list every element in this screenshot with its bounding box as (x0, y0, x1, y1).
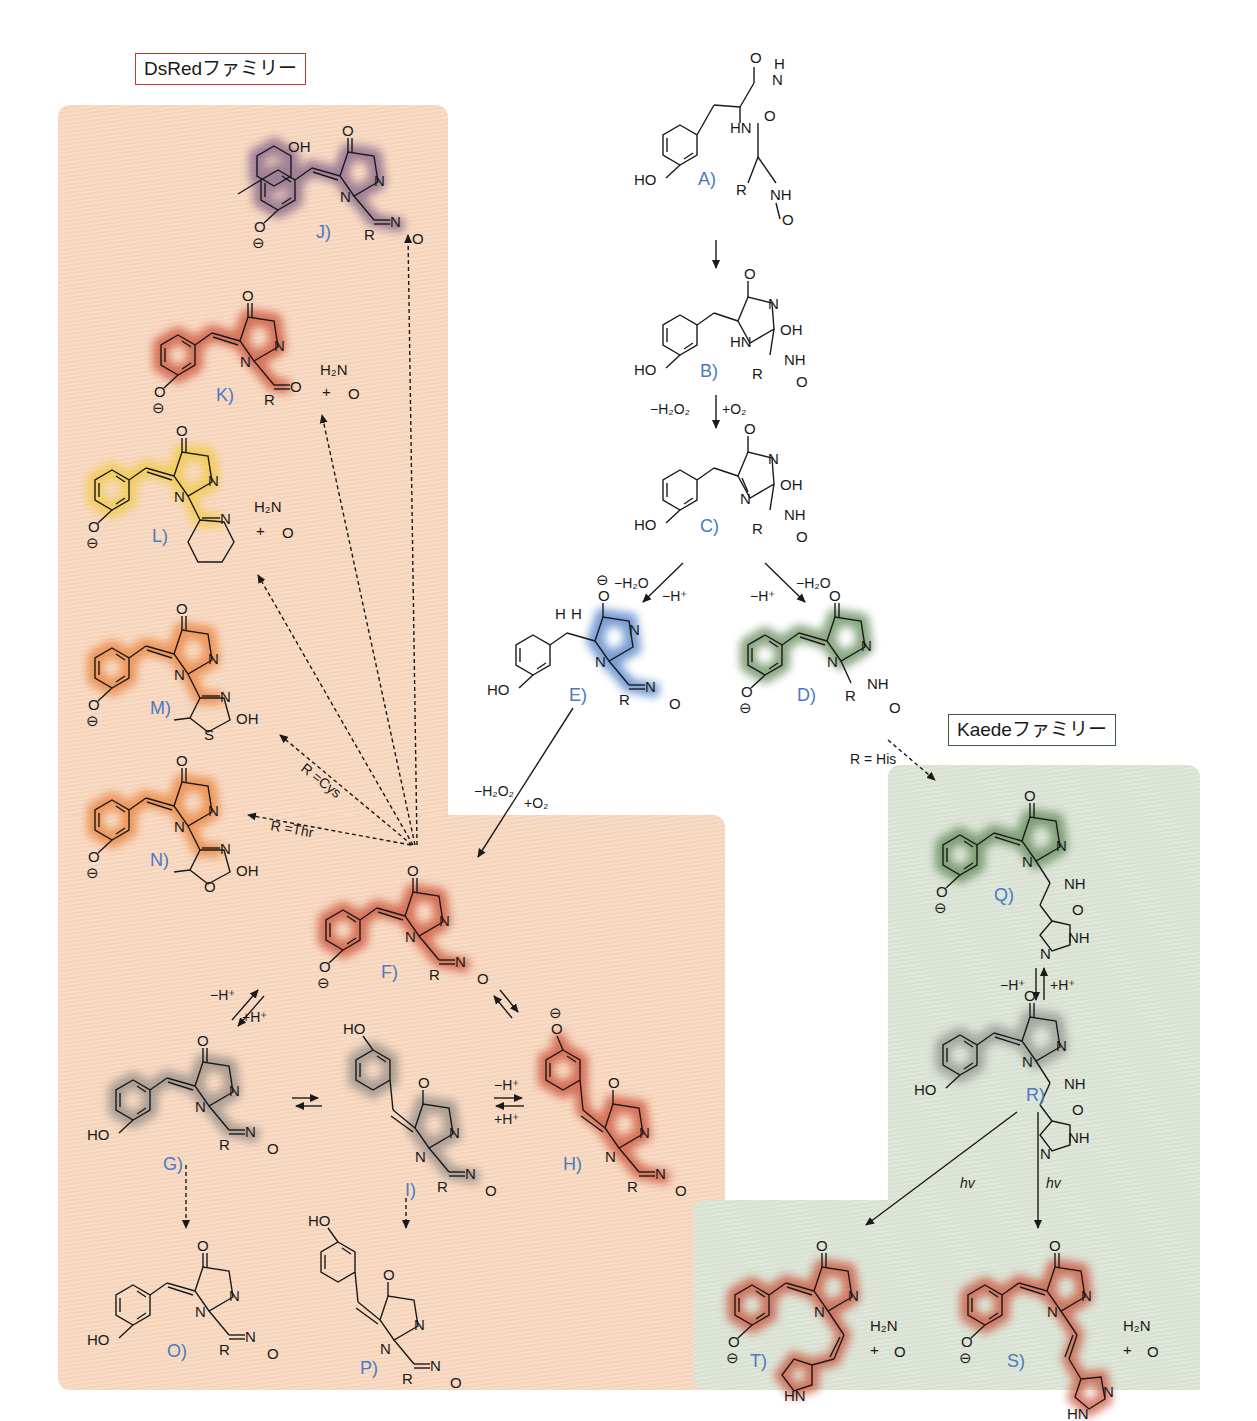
svg-text:T): T) (750, 1351, 767, 1371)
svg-text:N: N (595, 653, 606, 670)
svg-text:+O₂: +O₂ (524, 795, 549, 811)
svg-text:N: N (768, 295, 779, 312)
reaction-scheme: HO HN O N H O R NH O A) HO O N HN OH R N… (0, 0, 1257, 1421)
svg-text:O: O (282, 524, 294, 541)
svg-text:N: N (245, 1123, 256, 1140)
svg-text:R): R) (1026, 1085, 1045, 1105)
svg-text:O: O (342, 122, 354, 139)
svg-text:N: N (629, 621, 640, 638)
svg-text:NH: NH (1064, 1075, 1086, 1092)
svg-text:⊖: ⊖ (596, 571, 609, 588)
svg-text:−H⁺: −H⁺ (1000, 977, 1025, 993)
svg-text:O: O (412, 230, 424, 247)
svg-text:O: O (1072, 1101, 1084, 1118)
svg-text:N: N (208, 472, 219, 489)
svg-text:O: O (88, 518, 100, 535)
svg-text:O: O (176, 422, 188, 439)
svg-text:N: N (1081, 1287, 1092, 1304)
svg-text:O: O (741, 683, 753, 700)
compound-o: HO O N N N R O O) (87, 1237, 279, 1362)
svg-text:N: N (229, 1287, 240, 1304)
svg-text:N: N (814, 1303, 825, 1320)
compound-q: O ⊖ O N N NH O NH N Q) (934, 787, 1090, 962)
svg-text:O: O (348, 385, 360, 402)
svg-text:O: O (889, 699, 901, 716)
svg-text:OH: OH (780, 476, 803, 493)
svg-text:H₂N: H₂N (1123, 1317, 1151, 1334)
svg-text:NH: NH (867, 675, 889, 692)
svg-text:NH: NH (770, 186, 792, 203)
svg-text:⊖: ⊖ (959, 1349, 972, 1366)
svg-text:H₂N: H₂N (254, 498, 282, 515)
svg-text:R = His: R = His (850, 751, 896, 767)
svg-text:OH: OH (236, 710, 259, 727)
svg-text:⊖: ⊖ (739, 699, 752, 716)
svg-text:O: O (197, 1237, 209, 1254)
svg-text:O: O (961, 1333, 973, 1350)
svg-text:HO: HO (634, 516, 657, 533)
svg-text:+: + (870, 1341, 879, 1358)
svg-text:N: N (274, 337, 285, 354)
svg-text:HO: HO (343, 1020, 366, 1037)
svg-text:O: O (1147, 1343, 1159, 1360)
svg-text:O: O (796, 373, 808, 390)
svg-text:O: O (176, 600, 188, 617)
svg-text:⊖: ⊖ (86, 712, 99, 729)
svg-text:H): H) (563, 1154, 582, 1174)
svg-text:O: O (88, 696, 100, 713)
svg-text:O: O (407, 862, 419, 879)
svg-text:N: N (174, 818, 185, 835)
svg-text:N: N (439, 912, 450, 929)
svg-text:K): K) (216, 385, 234, 405)
svg-text:+: + (322, 383, 331, 400)
svg-text:HO: HO (634, 361, 657, 378)
svg-text:+: + (256, 522, 265, 539)
svg-text:NH: NH (784, 506, 806, 523)
svg-text:HN: HN (730, 333, 752, 350)
svg-text:N: N (405, 928, 416, 945)
svg-text:⊖: ⊖ (317, 974, 330, 991)
svg-text:R: R (402, 1370, 413, 1387)
svg-text:F): F) (381, 962, 398, 982)
svg-text:N: N (174, 666, 185, 683)
svg-text:O: O (782, 211, 794, 228)
svg-text:O: O (669, 695, 681, 712)
svg-text:OH: OH (236, 862, 259, 879)
svg-text:N: N (245, 1328, 256, 1345)
compound-c: HO O N N OH R NH O C) (634, 420, 808, 545)
svg-text:R: R (264, 391, 275, 408)
svg-text:Q): Q) (994, 885, 1014, 905)
svg-text:N: N (848, 1287, 859, 1304)
compound-p: HO O N N N R O P) (308, 1212, 462, 1391)
svg-text:O: O (936, 883, 948, 900)
svg-text:N: N (1047, 1303, 1058, 1320)
svg-text:R: R (752, 520, 763, 537)
svg-text:O: O (829, 587, 841, 604)
svg-text:−H₂O: −H₂O (614, 575, 649, 591)
svg-text:HO: HO (914, 1081, 937, 1098)
svg-text:N: N (1103, 1383, 1114, 1400)
svg-text:O: O (764, 107, 776, 124)
svg-text:NH: NH (1064, 875, 1086, 892)
svg-text:P): P) (360, 1358, 378, 1378)
svg-text:HN: HN (1067, 1405, 1089, 1421)
svg-text:+O₂: +O₂ (722, 401, 747, 417)
svg-text:L): L) (152, 526, 168, 546)
svg-text:N: N (740, 490, 751, 507)
svg-text:H₂N: H₂N (870, 1317, 898, 1334)
svg-text:HO: HO (87, 1331, 110, 1348)
compound-m: O ⊖ O N N N S OH M) (86, 600, 259, 743)
svg-text:N: N (455, 953, 466, 970)
svg-text:⊖: ⊖ (934, 899, 947, 916)
svg-text:O: O (894, 1343, 906, 1360)
svg-text:O: O (1024, 787, 1036, 804)
svg-text:⊖: ⊖ (726, 1349, 739, 1366)
svg-text:−H₂O₂: −H₂O₂ (474, 783, 514, 799)
svg-text:O: O (254, 218, 266, 235)
svg-text:O: O (88, 848, 100, 865)
svg-text:N: N (220, 510, 231, 527)
svg-text:O: O (1049, 1237, 1061, 1254)
svg-text:R: R (437, 1178, 448, 1195)
compound-k: O ⊖ O N N O R H₂N + O K) (152, 287, 360, 416)
svg-text:O: O (450, 1374, 462, 1391)
